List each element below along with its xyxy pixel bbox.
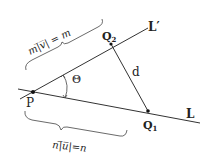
label-L: L [186,107,195,121]
line-L-prime [20,28,148,99]
label-theta: Θ [72,73,81,86]
geometry-diagram: P Q2 Q1 L′ L d Θ m|̅v̅| = m n|̅u̅|=n [0,0,210,157]
label-Q2: Q2 [102,30,117,44]
segment-d [111,44,148,111]
brace-lower [25,111,127,136]
label-L-prime: L′ [148,20,160,34]
point-Q1 [146,109,150,113]
label-Q1: Q1 [143,119,158,133]
label-d: d [132,65,140,79]
label-brace-upper: m|̅v̅| = m [26,27,73,58]
label-P: P [26,96,34,110]
label-brace-lower: n|̅u̅|=n [52,139,88,155]
angle-arc [63,75,67,98]
line-L [18,89,200,123]
point-P [31,90,35,94]
